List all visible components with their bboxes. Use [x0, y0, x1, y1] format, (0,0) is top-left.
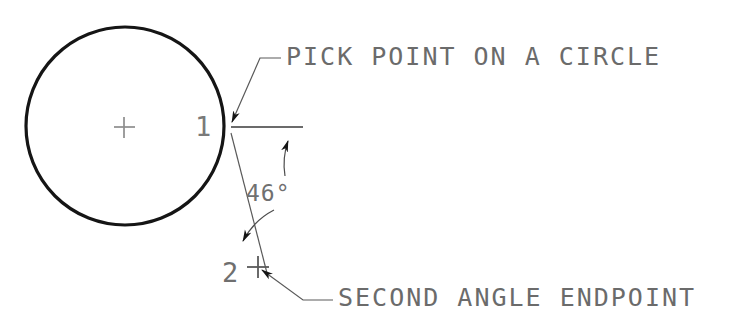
second-endpoint-annotation-text: SECOND ANGLE ENDPOINT [338, 285, 696, 310]
pick-point-two-number: 2 [222, 259, 240, 286]
leader-line-pick-point [232, 58, 281, 122]
pick-point-annotation-text: PICK POINT ON A CIRCLE [286, 44, 661, 69]
pick-point-one-number: 1 [195, 113, 213, 140]
second-point-mark-icon [247, 256, 269, 278]
cad-drawing-canvas: PICK POINT ON A CIRCLE SECOND ANGLE ENDP… [0, 0, 741, 332]
angle-dimension-arc-lower [243, 210, 274, 241]
angle-dimension-text: 46° [246, 182, 291, 205]
center-mark-icon [114, 117, 135, 138]
angle-dimension-arc-upper [284, 141, 288, 176]
leader-line-second-endpoint [262, 270, 333, 300]
